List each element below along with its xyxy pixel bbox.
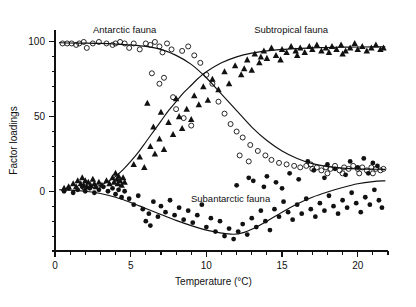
data-point-filled-circle: [209, 216, 214, 221]
data-point-open-circle: [160, 50, 165, 55]
data-point-triangle: [188, 116, 194, 122]
data-point-filled-circle: [186, 208, 191, 213]
data-point-open-circle: [237, 153, 242, 158]
x-axis-tick-label: 5: [128, 260, 134, 271]
data-point-filled-circle: [274, 180, 279, 185]
data-point-filled-circle: [333, 166, 338, 171]
data-point-triangle: [238, 71, 244, 77]
data-point-triangle: [232, 62, 238, 68]
data-point-filled-circle: [290, 217, 295, 222]
data-point-open-circle: [157, 81, 162, 86]
data-point-filled-circle: [116, 187, 121, 192]
data-point-triangle: [241, 65, 247, 71]
data-point-triangle: [176, 113, 182, 119]
data-point-triangle: [152, 150, 158, 156]
data-point-filled-circle: [218, 219, 223, 224]
data-point-triangle: [297, 44, 303, 50]
data-point-filled-circle: [277, 214, 282, 219]
data-point-open-circle: [263, 153, 268, 158]
data-point-filled-circle: [181, 217, 186, 222]
data-point-filled-circle: [195, 213, 200, 218]
data-point-triangle: [137, 153, 143, 159]
data-point-triangle: [249, 67, 255, 73]
data-point-open-circle: [370, 171, 375, 176]
data-point-filled-circle: [92, 190, 97, 195]
data-point-triangle: [130, 161, 136, 167]
data-point-filled-circle: [286, 210, 291, 215]
data-point-filled-circle: [204, 225, 209, 230]
data-point-triangle: [351, 40, 357, 46]
data-point-filled-circle: [97, 187, 102, 192]
data-point-filled-circle: [143, 219, 148, 224]
data-point-open-circle: [357, 171, 362, 176]
data-point-triangle: [183, 106, 189, 112]
data-point-open-circle: [110, 42, 115, 47]
data-point-filled-circle: [66, 186, 71, 191]
data-point-triangle: [359, 43, 365, 49]
data-point-open-circle: [165, 41, 170, 46]
data-point-triangle: [191, 92, 197, 98]
data-point-triangle: [314, 41, 320, 47]
data-point-open-circle: [189, 123, 194, 128]
data-point-filled-circle: [122, 189, 127, 194]
data-point-filled-circle: [340, 198, 345, 203]
data-point-filled-circle: [261, 184, 266, 189]
y-axis-tick-label: 0: [39, 186, 45, 197]
data-point-open-circle: [378, 168, 383, 173]
data-point-open-circle: [192, 53, 197, 58]
data-point-triangle: [273, 52, 279, 58]
data-point-filled-circle: [348, 159, 353, 164]
data-point-triangle: [165, 119, 171, 125]
data-point-filled-circle: [213, 229, 218, 234]
data-point-filled-circle: [101, 184, 106, 189]
data-point-filled-circle: [375, 163, 380, 168]
data-point-filled-circle: [234, 183, 239, 188]
data-point-filled-circle: [231, 237, 236, 242]
data-point-triangle: [144, 100, 150, 106]
data-point-triangle: [158, 109, 164, 115]
data-point-triangle: [209, 76, 215, 82]
data-point-filled-circle: [75, 187, 80, 192]
data-point-triangle: [258, 53, 264, 59]
data-point-filled-circle: [268, 228, 273, 233]
data-point-filled-circle: [380, 205, 385, 210]
data-point-triangle: [373, 41, 379, 47]
series-annotation-1: Subtropical fauna: [254, 24, 329, 35]
fit-curve-series-2: [60, 181, 385, 234]
data-point-filled-circle: [327, 193, 332, 198]
series-annotations-group: Antarctic faunaSubtropical faunaSubantar…: [93, 24, 329, 204]
points-series-0: [60, 39, 386, 175]
data-point-filled-circle: [366, 171, 371, 176]
data-point-triangle: [147, 143, 153, 149]
data-point-filled-circle: [367, 202, 372, 207]
data-point-filled-circle: [313, 214, 318, 219]
scatter-chart: 05010005101520 Antarctic faunaSubtropica…: [0, 0, 416, 307]
data-point-filled-circle: [317, 201, 322, 206]
data-point-triangle: [244, 56, 250, 62]
data-point-triangle: [261, 47, 267, 53]
data-point-open-circle: [216, 99, 221, 104]
data-point-filled-circle: [127, 196, 132, 201]
data-point-open-circle: [81, 39, 86, 44]
data-point-triangle: [141, 164, 147, 170]
data-point-open-circle: [127, 45, 132, 50]
data-point-filled-circle: [305, 159, 310, 164]
axes-group: 05010005101520: [28, 30, 388, 271]
data-point-open-circle: [84, 45, 89, 50]
y-axis-title: Factor loadings: [8, 106, 19, 174]
data-points-group: [60, 39, 387, 241]
data-point-open-circle: [292, 163, 297, 168]
data-point-open-circle: [137, 47, 142, 52]
data-point-triangle: [256, 59, 262, 65]
data-point-open-circle: [240, 135, 245, 140]
data-point-filled-circle: [349, 190, 354, 195]
data-point-open-circle: [152, 39, 157, 44]
data-point-filled-circle: [62, 189, 67, 194]
data-point-filled-circle: [372, 187, 377, 192]
data-point-filled-circle: [251, 178, 256, 183]
data-point-filled-circle: [322, 208, 327, 213]
data-point-filled-circle: [308, 207, 313, 212]
data-point-filled-circle: [159, 204, 164, 209]
data-point-filled-circle: [355, 165, 360, 170]
x-axis-tick-label: 10: [201, 260, 213, 271]
